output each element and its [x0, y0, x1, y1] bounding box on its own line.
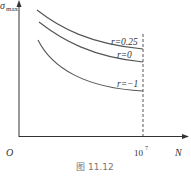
- label-r-minus-1: r=−1: [117, 79, 138, 89]
- x-marker-label: 10: [134, 148, 144, 158]
- origin-label: O: [6, 147, 13, 158]
- x-axis-label: N: [174, 147, 183, 158]
- y-axis-label-subscript: max: [6, 5, 19, 13]
- x-marker-exponent: 7: [145, 145, 148, 151]
- label-r-0: r=0: [117, 50, 132, 60]
- fatigue-curve-chart: r=0.25 r=0 r=−1 σ max O 10 7 N 图 11.12: [0, 0, 191, 176]
- label-r-0.25: r=0.25: [111, 37, 138, 47]
- x-axis-arrow-icon: [182, 134, 189, 139]
- figure-caption: 图 11.12: [76, 162, 114, 172]
